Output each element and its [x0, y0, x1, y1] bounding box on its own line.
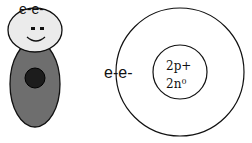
hair-electron-label: e-e- [19, 1, 44, 17]
atom-diagram: e-e- 2p+ 2n0 [104, 8, 244, 136]
neutron-count-superscript: 0 [181, 77, 186, 86]
neutron-count: 2n0 [166, 77, 186, 91]
proton-count: 2p+ [166, 59, 191, 73]
right-eye [40, 27, 44, 30]
left-eye [31, 27, 35, 30]
shell-electron-label: e-e- [104, 64, 132, 81]
character-figure: e-e- [8, 1, 62, 127]
neutron-count-base: 2n [166, 77, 182, 91]
diagram-canvas: e-e- e-e- 2p+ 2n0 [0, 0, 252, 143]
character-core [25, 68, 45, 88]
